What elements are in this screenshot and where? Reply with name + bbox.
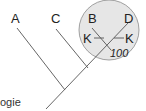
cladogram: A C B D K K 100 ogie	[0, 0, 146, 111]
caption-fragment: ogie	[0, 96, 21, 108]
character-label-right: K	[125, 31, 134, 46]
taxon-label-d: D	[124, 11, 133, 26]
character-label-left: K	[83, 31, 92, 46]
taxon-label-a: A	[11, 11, 20, 26]
node-support-value: 100	[110, 47, 129, 59]
highlight-circle	[79, 0, 139, 60]
taxon-label-c: C	[51, 11, 60, 26]
taxon-label-b: B	[88, 11, 97, 26]
branch-a	[17, 28, 65, 90]
